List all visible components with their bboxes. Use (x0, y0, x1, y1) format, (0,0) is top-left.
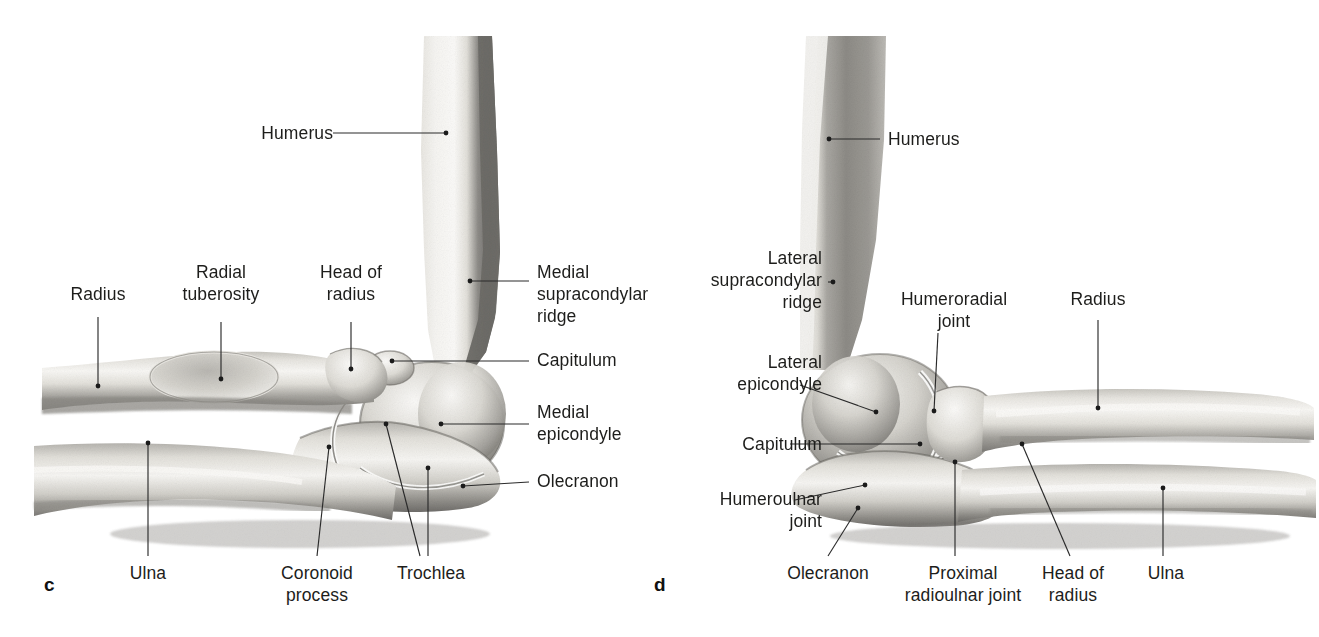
panel-letter-d: d (654, 574, 666, 596)
label-radial-tuberosity: Radial tuberosity (160, 261, 282, 305)
label-ulna-d: Ulna (1130, 562, 1202, 584)
label-head-of-radius-d: Head of radius (1022, 562, 1124, 606)
figure-canvas: Humerus Radius Radial tuberosity Head of… (0, 0, 1319, 637)
label-olecranon-d: Olecranon (770, 562, 886, 584)
label-humerus-c: Humerus (168, 122, 333, 144)
label-medial-epicondyle: Medial epicondyle (537, 401, 687, 445)
label-capitulum-d: Capitulum (666, 433, 822, 455)
label-humerus-d: Humerus (888, 128, 1018, 150)
label-coronoid-process: Coronoid process (258, 562, 376, 606)
label-humeroradial-joint: Humeroradial joint (884, 288, 1024, 332)
label-radius-d: Radius (1042, 288, 1154, 310)
label-proximal-radioulnar-joint: Proximal radioulnar joint (890, 562, 1036, 606)
label-trochlea: Trochlea (379, 562, 483, 584)
label-head-of-radius-c: Head of radius (297, 261, 405, 305)
label-capitulum-c: Capitulum (537, 349, 687, 371)
panel-letter-c: c (44, 574, 55, 596)
label-humeroulnar-joint: Humeroulnar joint (662, 488, 822, 532)
label-ulna-c: Ulna (96, 562, 200, 584)
label-lateral-supracondylar-ridge: Lateral supracondylar ridge (662, 247, 822, 313)
label-lateral-epicondyle: Lateral epicondyle (666, 351, 822, 395)
label-radius-c: Radius (44, 283, 152, 305)
